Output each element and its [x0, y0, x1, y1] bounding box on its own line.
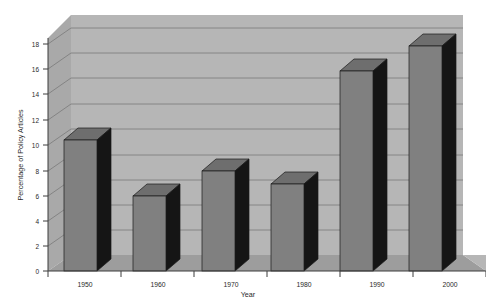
bar-1960-side [166, 184, 180, 271]
bar-1980-side [304, 172, 318, 271]
y-axis-title: Percentage of Policy Articles [16, 109, 25, 200]
y-axis-tick-labels: 18 16 14 12 10 8 6 4 2 0 [32, 41, 40, 275]
bar-1990-side [373, 59, 387, 271]
bar-1970-side [235, 159, 249, 271]
y-axis-ticks [43, 44, 48, 271]
chart-canvas: 18 16 14 12 10 8 6 4 2 0 1950 1960 1970 … [0, 0, 486, 308]
bar-1950-side [97, 128, 111, 271]
y-tick-label-2: 2 [35, 243, 39, 250]
bar-1950 [64, 128, 111, 271]
y-tick-label-18: 18 [32, 41, 40, 48]
x-axis-title: Year [241, 290, 256, 299]
bar-2000 [409, 34, 456, 271]
x-category-label-1950: 1950 [77, 281, 92, 288]
plot-back-wall [71, 15, 463, 255]
y-tick-label-6: 6 [35, 193, 39, 200]
y-tick-label-4: 4 [35, 218, 39, 225]
x-category-label-1990: 1990 [369, 281, 384, 288]
bar-2000-side [442, 34, 456, 271]
y-tick-label-8: 8 [35, 168, 39, 175]
x-category-label-1960: 1960 [150, 281, 165, 288]
bar-1980 [271, 172, 318, 271]
x-category-label-1970: 1970 [223, 281, 238, 288]
x-axis-ticks [48, 271, 486, 277]
bar-chart: 18 16 14 12 10 8 6 4 2 0 1950 1960 1970 … [0, 0, 486, 308]
bar-1990-face [340, 71, 373, 271]
x-axis-category-labels: 1950 1960 1970 1980 1990 2000 [77, 281, 457, 288]
y-tick-label-14: 14 [32, 91, 40, 98]
bar-2000-face [409, 46, 442, 271]
x-category-label-1980: 1980 [296, 281, 311, 288]
bar-1950-face [64, 140, 97, 271]
y-tick-label-16: 16 [32, 66, 40, 73]
bar-1970-face [202, 171, 235, 271]
bar-1960 [133, 184, 180, 271]
bar-1980-face [271, 184, 304, 271]
x-category-label-2000: 2000 [442, 281, 457, 288]
y-tick-label-12: 12 [32, 117, 40, 124]
bar-1970 [202, 159, 249, 271]
y-tick-label-10: 10 [32, 142, 40, 149]
y-tick-label-0: 0 [35, 268, 39, 275]
bar-1990 [340, 59, 387, 271]
bar-1960-face [133, 196, 166, 271]
